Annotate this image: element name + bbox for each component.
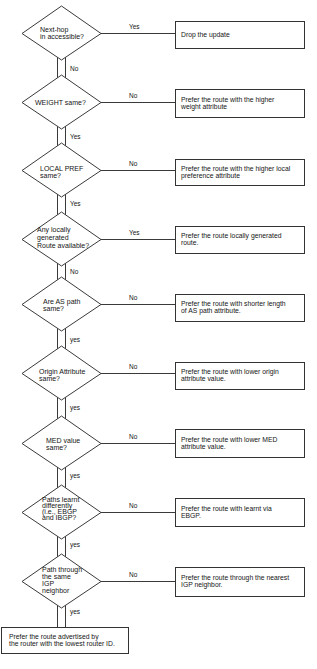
action-text-line: IGP neighbor.: [181, 581, 301, 588]
branch-label: No: [129, 363, 137, 371]
decision-text-line: same?: [40, 172, 83, 179]
decision-text: LOCAL PREF same?: [40, 165, 83, 179]
action-box: Prefer the route through the nearest IGP…: [175, 567, 305, 597]
action-text-line: attribute value.: [181, 375, 301, 382]
action-text-line: of AS path attribute.: [181, 307, 301, 314]
branch-label: No: [129, 160, 137, 168]
action-box: Prefer the route locally generated route…: [175, 226, 305, 254]
flow-label: yes: [70, 404, 80, 412]
decision-text: WEIGHT same?: [35, 99, 86, 106]
action-text-line: Prefer the route with learnt via: [181, 505, 301, 512]
action-text-line: Prefer the route through the nearest: [181, 574, 301, 581]
decision-text-line: same?: [39, 375, 85, 382]
action-box: Drop the update: [175, 21, 305, 49]
branch-label: No: [129, 433, 137, 441]
decision-text-line: and IBGP?: [42, 515, 79, 521]
action-text-line: the router with the lowest router ID.: [9, 640, 125, 647]
action-box: Prefer the route with learnt via EBGP.: [175, 498, 305, 527]
branch-label: No: [129, 571, 137, 579]
flow-label: No: [70, 268, 78, 276]
decision-text-line: WEIGHT same?: [35, 99, 86, 106]
decision-text-line: neighbor: [42, 587, 82, 594]
flow-label: yes: [70, 608, 80, 616]
decision-text-line: Next-hop: [40, 26, 84, 33]
decision-text: Origin Attribute same?: [39, 368, 85, 382]
action-text-line: Prefer the route locally generated: [181, 232, 301, 239]
decision-text-line: the same: [42, 573, 82, 580]
decision-text-line: generated: [37, 234, 89, 242]
branch-label: Yes: [129, 229, 140, 237]
horizontal-connectors: [101, 34, 175, 582]
action-text-line: Prefer the route with shorter length: [181, 300, 301, 307]
decision-text: Are AS path same?: [43, 298, 80, 312]
decision-text-line: same?: [46, 444, 80, 451]
action-box: Prefer the route with shorter length of …: [175, 294, 305, 322]
branch-label: Yes: [129, 23, 140, 31]
flow-label: yes: [70, 541, 80, 549]
action-text-line: route.: [181, 239, 301, 246]
branch-label: No: [129, 92, 137, 100]
flow-label: yes: [70, 336, 80, 344]
action-text-line: Prefer the route with the higher local: [181, 165, 301, 172]
bgp-path-selection-flowchart: Next-hop in accessible? Yes Drop the upd…: [0, 0, 317, 669]
decision-text: Path through the same IGP neighbor: [42, 566, 82, 594]
decision-text-line: LOCAL PREF: [40, 165, 83, 172]
action-text-line: preference attribute: [181, 172, 301, 179]
action-text-line: attribute value.: [181, 443, 301, 450]
action-text-line: EBGP.: [181, 512, 301, 519]
decision-text-line: Are AS path: [43, 298, 80, 305]
action-text-line: Prefer the route with lower MED: [181, 436, 301, 443]
flow-label: Yes: [70, 200, 81, 208]
action-box: Prefer the route with the higher weight …: [175, 89, 305, 118]
flow-label: No: [70, 65, 78, 73]
decision-text-line: Route available?: [37, 242, 89, 250]
branch-label: No: [129, 294, 137, 302]
final-action-box: Prefer the route advertised by the route…: [1, 627, 129, 654]
decision-text: Any locally generated Route available?: [37, 226, 89, 250]
branch-label: No: [129, 502, 137, 510]
decision-text-line: IGP: [42, 580, 82, 587]
flow-label: yes: [70, 472, 80, 480]
action-text-line: Prefer the route advertised by: [9, 633, 125, 640]
action-text-line: weight attribute: [181, 103, 301, 110]
action-box: Prefer the route with lower MED attribut…: [175, 429, 305, 458]
action-box: Prefer the route with lower origin attri…: [175, 362, 305, 390]
decision-text-line: same?: [43, 305, 80, 312]
action-text-line: Prefer the route with the higher: [181, 96, 301, 103]
decision-text: Paths learnt differently (i.e., EBGP and…: [42, 497, 79, 521]
flow-label: Yes: [70, 133, 81, 141]
decision-text-line: in accessible?: [40, 33, 84, 40]
action-text-line: Prefer the route with lower origin: [181, 368, 301, 375]
decision-text: MED value same?: [46, 437, 80, 451]
decision-text-line: Any locally: [37, 226, 89, 234]
action-box: Prefer the route with the higher local p…: [175, 159, 305, 186]
decision-text-line: Path through: [42, 566, 82, 573]
decision-text-line: Origin Attribute: [39, 368, 85, 375]
decision-text-line: MED value: [46, 437, 80, 444]
action-text-line: Drop the update: [181, 31, 301, 38]
decision-text: Next-hop in accessible?: [40, 26, 84, 40]
